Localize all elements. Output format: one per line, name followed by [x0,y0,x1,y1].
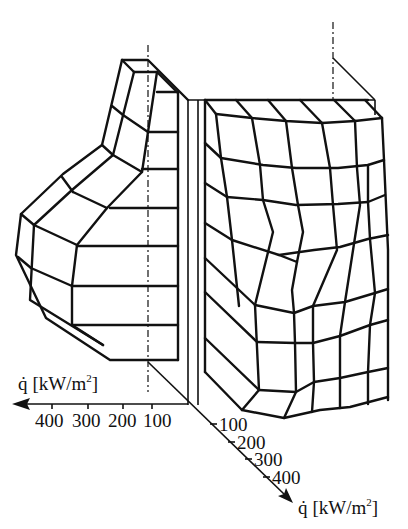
right-flux-surface [205,100,388,418]
left-axis [12,398,188,410]
left-tick-400: 400 [35,410,64,431]
left-tick-200: 200 [108,410,137,431]
left-tick-300: 300 [72,410,101,431]
left-axis-label: q̇[kW/m2] [18,372,98,394]
central-plate [188,58,375,405]
left-flux-surface [16,60,188,360]
heat-flux-diagram: q̇[kW/m2] 400 300 200 100 100 200 300 40… [0,0,408,529]
right-axis-label: q̇[kW/m2] [298,496,378,518]
right-tick-400: 400 [272,467,301,488]
left-tick-100: 100 [143,410,172,431]
